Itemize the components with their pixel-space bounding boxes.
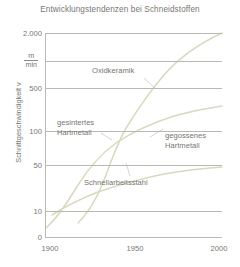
- gridline-50: [46, 165, 222, 166]
- ytick-2000: 2.000: [23, 29, 42, 38]
- gridline-2000: [46, 33, 222, 34]
- gridline-0: [46, 237, 222, 238]
- label-gegossenes-hartmetall: gegossenesHartmetall: [165, 131, 206, 150]
- label-gegossenes-line1: gegossenesHartmetall: [165, 131, 206, 150]
- label-oxidkeramik: Oxidkeramik: [92, 66, 134, 75]
- ytick-500: 500: [29, 84, 42, 93]
- label-gesintertes-hartmetall: gesintertesHartmetall: [57, 118, 94, 137]
- curve-schnellarbeitsstahl: [52, 167, 222, 215]
- ytick-0: 0: [38, 233, 42, 242]
- y-axis-unit: m min: [24, 52, 38, 69]
- y-axis-line: [45, 33, 46, 238]
- y-axis-title: Schnittgeschwindigkeit v: [14, 53, 23, 193]
- xtick-1900: 1900: [42, 244, 59, 253]
- gridline-unit: [46, 61, 222, 62]
- ytick-100: 100: [29, 127, 42, 136]
- ytick-50: 50: [34, 161, 42, 170]
- leader-gesintertes: [101, 133, 112, 140]
- gridline-10: [46, 211, 222, 212]
- xtick-2000: 2000: [211, 244, 228, 253]
- y-unit-denominator: min: [24, 61, 38, 69]
- chart-container: Entwicklungstendenzen bei Schneidstoffen…: [0, 0, 240, 267]
- gridline-500: [46, 88, 222, 89]
- label-schnellarbeitsstahl: Schnellarbeitsstahl: [84, 178, 148, 187]
- xtick-1950: 1950: [127, 244, 144, 253]
- ytick-10: 10: [34, 207, 42, 216]
- label-gesintertes-line1: gesintertesHartmetall: [57, 118, 94, 137]
